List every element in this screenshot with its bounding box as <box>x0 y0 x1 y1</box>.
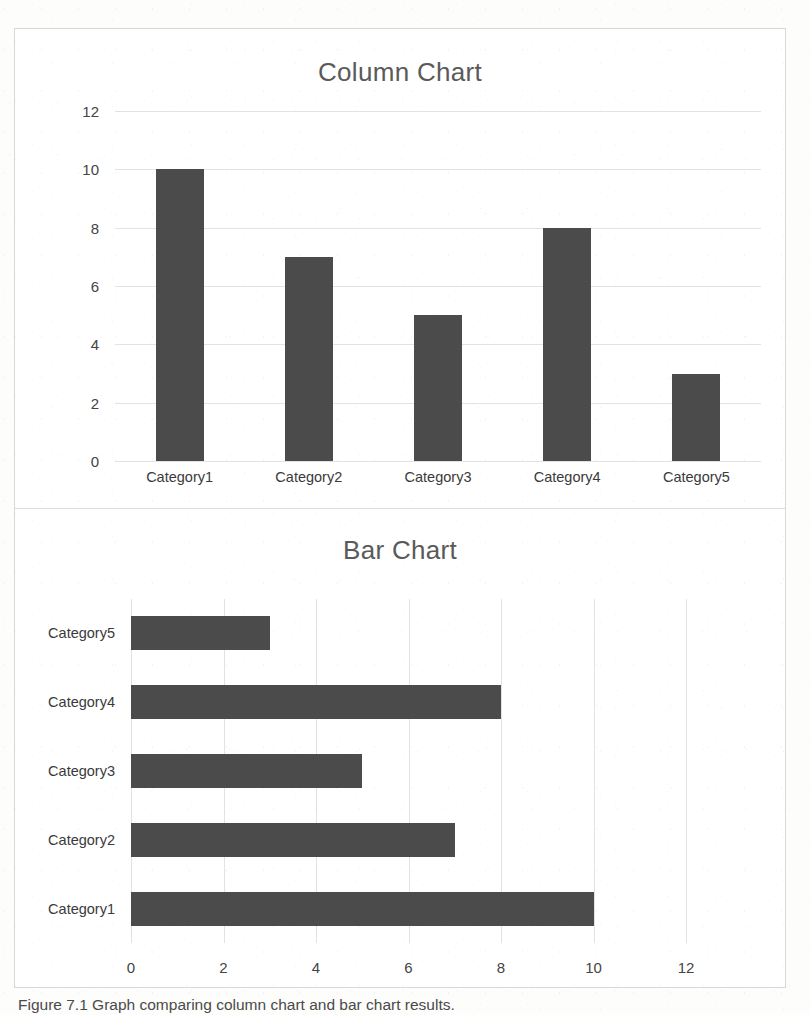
column-chart-category-label: Category1 <box>146 469 213 485</box>
column-chart-bar <box>672 374 720 462</box>
bar-chart-gridline <box>686 599 687 943</box>
bar-chart-bar <box>131 823 455 857</box>
figure-caption: Figure 7.1 Graph comparing column chart … <box>18 996 718 1014</box>
column-chart-y-tick-label: 4 <box>15 336 99 353</box>
column-chart-category-label: Category5 <box>663 469 730 485</box>
bar-chart-x-axis: 024681012 <box>131 953 686 981</box>
bar-chart-x-tick-label: 8 <box>497 959 505 976</box>
column-chart-category-label: Category2 <box>275 469 342 485</box>
column-chart-bar <box>285 257 333 461</box>
bar-chart-category-label: Category4 <box>15 694 115 710</box>
bar-chart-x-tick-label: 4 <box>312 959 320 976</box>
bar-chart-category-label: Category2 <box>15 832 115 848</box>
bar-chart-category-label: Category5 <box>15 625 115 641</box>
column-chart-y-tick-label: 12 <box>15 103 99 120</box>
column-chart-bar <box>156 169 204 461</box>
bar-chart-x-tick-label: 0 <box>127 959 135 976</box>
bar-chart-x-tick-label: 10 <box>585 959 602 976</box>
bar-chart-bars <box>131 599 686 943</box>
column-chart-title: Column Chart <box>15 57 785 88</box>
column-chart-y-tick-label: 0 <box>15 453 99 470</box>
bar-chart-category-labels: Category5Category4Category3Category2Cate… <box>15 599 125 943</box>
bar-chart-category-label: Category1 <box>15 901 115 917</box>
column-chart-bar <box>543 228 591 461</box>
column-chart-y-tick-label: 8 <box>15 219 99 236</box>
bar-chart-bar <box>131 754 362 788</box>
bar-chart-x-tick-label: 12 <box>678 959 695 976</box>
column-chart-bars <box>115 111 761 461</box>
column-chart-y-axis: 024681012 <box>15 111 115 461</box>
bar-chart-category-label: Category3 <box>15 763 115 779</box>
bar-chart: Bar Chart Category5Category4Category3Cat… <box>15 509 785 988</box>
column-chart-category-label: Category3 <box>405 469 472 485</box>
bar-chart-title: Bar Chart <box>15 535 785 566</box>
column-chart-category-labels: Category1Category2Category3Category4Cate… <box>115 469 761 499</box>
figure-frame: Column Chart 024681012 Category1Category… <box>14 28 786 988</box>
column-chart-y-tick-label: 6 <box>15 278 99 295</box>
bar-chart-bar <box>131 685 501 719</box>
column-chart-y-tick-label: 2 <box>15 394 99 411</box>
column-chart-y-tick-label: 10 <box>15 161 99 178</box>
column-chart-gridline <box>115 461 761 462</box>
bar-chart-x-tick-label: 6 <box>404 959 412 976</box>
column-chart-bar <box>414 315 462 461</box>
bar-chart-bar <box>131 892 594 926</box>
bar-chart-bar <box>131 616 270 650</box>
column-chart-category-label: Category4 <box>534 469 601 485</box>
bar-chart-x-tick-label: 2 <box>219 959 227 976</box>
column-chart: Column Chart 024681012 Category1Category… <box>15 29 785 509</box>
